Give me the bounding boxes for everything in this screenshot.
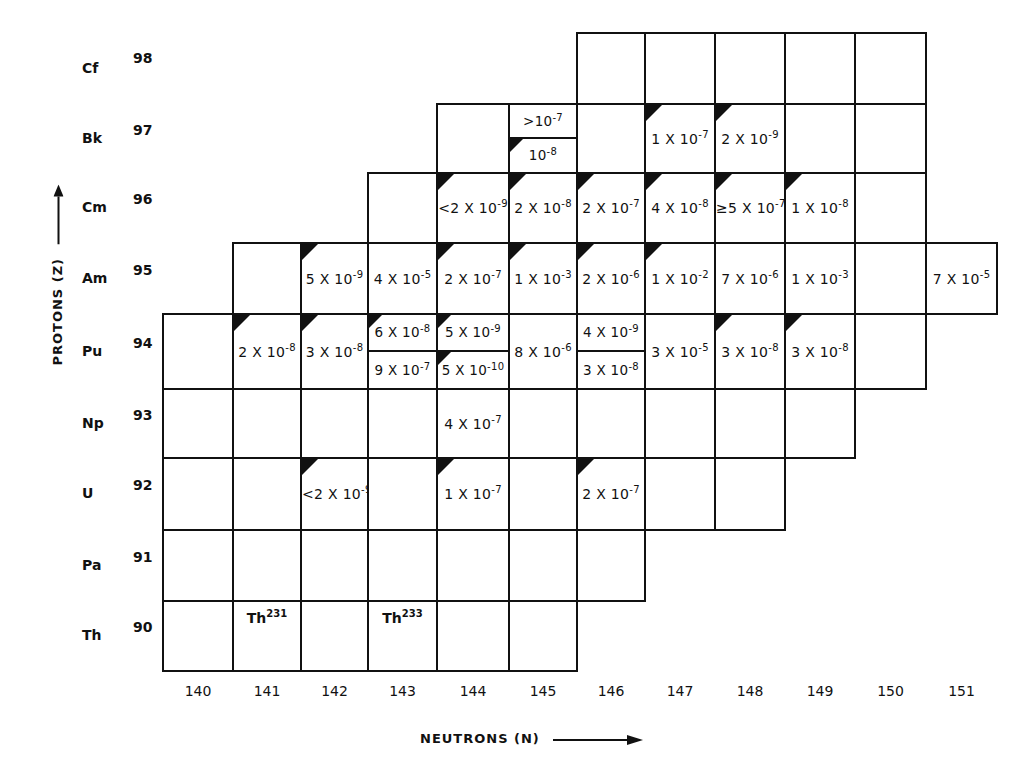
arrow-up-icon xyxy=(53,184,63,244)
corner-marker-icon xyxy=(510,244,526,260)
element-symbol-label: Am xyxy=(82,270,122,286)
nuclide-cell-pa-140 xyxy=(162,529,234,602)
neutron-tick-140: 140 xyxy=(178,683,218,699)
element-symbol-label: Bk xyxy=(82,130,122,146)
value-mantissa: 1 X 10 xyxy=(651,131,698,147)
corner-marker-icon xyxy=(510,174,526,190)
value-exponent: -8 xyxy=(420,323,431,334)
corner-marker-icon xyxy=(438,244,454,260)
value-mantissa: ≥5 X 10 xyxy=(716,200,775,216)
corner-marker-icon xyxy=(578,244,594,260)
nuclide-cell-cf-146 xyxy=(576,32,646,105)
value-mantissa: <2 X 10 xyxy=(302,486,361,502)
value-exponent: -2 xyxy=(698,269,709,280)
nuclide-cell-pu-148: 3 X 10-8 xyxy=(714,313,786,390)
nuclide-cell-am-144: 2 X 10-7 xyxy=(436,242,510,315)
cross-section-value: 1 X 10-2 xyxy=(646,271,714,287)
nuclide-cell-bk-148: 2 X 10-9 xyxy=(714,103,786,174)
cell-upper-half: 6 X 10-8 xyxy=(369,315,436,352)
nuclide-cell-pa-145 xyxy=(508,529,578,602)
value-exponent: -3 xyxy=(838,269,849,280)
value-exponent: -5 xyxy=(698,342,709,353)
nuclide-cell-th-145 xyxy=(508,600,578,672)
nuclide-chart: >10-710-81 X 10-72 X 10-9<2 X 10-92 X 10… xyxy=(0,0,1028,776)
value-exponent: -3 xyxy=(561,269,572,280)
corner-marker-icon xyxy=(646,105,662,121)
value-mantissa: >10 xyxy=(523,113,552,129)
value-exponent: -5 xyxy=(421,269,432,280)
corner-marker-icon xyxy=(302,315,318,331)
value-exponent: -9 xyxy=(353,269,364,280)
cross-section-value: 5 X 10-10 xyxy=(438,362,508,378)
nuclide-cell-pa-141 xyxy=(232,529,302,602)
cross-section-value: 4 X 10-5 xyxy=(369,271,436,287)
nuclide-cell-pa-143 xyxy=(367,529,438,602)
proton-number-label: 96 xyxy=(133,191,152,207)
cross-section-value: 5 X 10-9 xyxy=(438,324,508,340)
nuclide-cell-u-146: 2 X 10-7 xyxy=(576,457,646,531)
nuclide-cell-bk-145: >10-710-8 xyxy=(508,103,578,174)
nuclide-cell-pu-144: 5 X 10-95 X 10-10 xyxy=(436,313,510,390)
corner-marker-icon xyxy=(646,244,662,260)
nuclide-cell-np-140 xyxy=(162,388,234,459)
nuclide-cell-np-143 xyxy=(367,388,438,459)
cross-section-value: 7 X 10-6 xyxy=(716,271,784,287)
value-mantissa: 8 X 10 xyxy=(514,344,561,360)
value-exponent: -8 xyxy=(628,360,639,371)
cell-upper-half: 5 X 10-9 xyxy=(438,315,508,352)
neutron-tick-145: 145 xyxy=(523,683,563,699)
value-mantissa: 4 X 10 xyxy=(583,324,628,340)
element-symbol-label: Cf xyxy=(82,60,122,76)
nuclide-cell-np-141 xyxy=(232,388,302,459)
nuclide-cell-cm-150 xyxy=(854,172,927,244)
value-mantissa: 3 X 10 xyxy=(721,344,768,360)
value-mantissa: 1 X 10 xyxy=(514,271,561,287)
value-mantissa: 7 X 10 xyxy=(933,271,980,287)
cross-section-value: 2 X 10-7 xyxy=(438,271,508,287)
cross-section-value: 3 X 10-5 xyxy=(646,344,714,360)
corner-marker-icon xyxy=(578,174,594,190)
neutron-tick-149: 149 xyxy=(800,683,840,699)
neutron-tick-150: 150 xyxy=(871,683,911,699)
cross-section-value: 8 X 10-6 xyxy=(510,344,576,360)
value-mantissa: 2 X 10 xyxy=(238,344,285,360)
x-axis-title-text: NEUTRONS (N) xyxy=(420,731,540,746)
value-exponent: -8 xyxy=(838,342,849,353)
cross-section-value: 2 X 10-9 xyxy=(716,131,784,147)
value-mantissa: 3 X 10 xyxy=(583,362,628,378)
value-mantissa: 5 X 10 xyxy=(306,271,353,287)
neutron-tick-151: 151 xyxy=(942,683,982,699)
value-exponent: -6 xyxy=(561,342,572,353)
nuclide-cell-am-142: 5 X 10-9 xyxy=(300,242,369,315)
value-mantissa: 4 X 10 xyxy=(374,271,421,287)
value-exponent: -7 xyxy=(420,360,431,371)
value-exponent: -8 xyxy=(838,198,849,209)
element-symbol-label: Cm xyxy=(82,199,122,215)
corner-marker-icon xyxy=(302,459,318,475)
cross-section-value: 6 X 10-8 xyxy=(369,324,436,340)
cross-section-value: 5 X 10-9 xyxy=(302,271,367,287)
value-exponent: -7 xyxy=(629,484,640,495)
corner-marker-icon xyxy=(438,459,454,475)
neutron-tick-147: 147 xyxy=(660,683,700,699)
value-exponent: -8 xyxy=(561,198,572,209)
nuclide-cell-u-148 xyxy=(714,457,786,531)
corner-marker-icon xyxy=(438,174,454,190)
value-mantissa: 5 X 10 xyxy=(445,324,490,340)
nuclide-cell-cf-147 xyxy=(644,32,716,105)
value-mantissa: 7 X 10 xyxy=(721,271,768,287)
neutron-tick-148: 148 xyxy=(730,683,770,699)
corner-marker-icon xyxy=(786,315,802,331)
value-exponent: -9 xyxy=(628,323,639,334)
nuclide-cell-u-142: <2 X 10-9 xyxy=(300,457,369,531)
nuclide-cell-u-145 xyxy=(508,457,578,531)
nuclide-cell-pu-143: 6 X 10-89 X 10-7 xyxy=(367,313,438,390)
nuclide-cell-pa-146 xyxy=(576,529,646,602)
nuclide-cell-u-141 xyxy=(232,457,302,531)
cross-section-value: 3 X 10-8 xyxy=(578,362,644,378)
value-mantissa: 4 X 10 xyxy=(444,416,491,432)
nuclide-cell-pa-142 xyxy=(300,529,369,602)
cross-section-value: 2 X 10-6 xyxy=(578,271,644,287)
nuclide-cell-pu-150 xyxy=(854,313,927,390)
nuclide-cell-u-147 xyxy=(644,457,716,531)
